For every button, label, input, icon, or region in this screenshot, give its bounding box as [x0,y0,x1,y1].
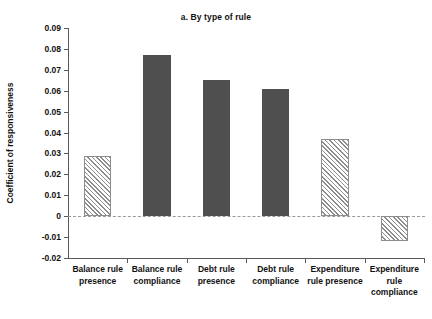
y-tick-label: 0.07 [44,65,61,75]
y-tick-label: 0.04 [44,128,61,138]
y-tick-mark [64,28,68,29]
x-category-label: Debt rule presence [187,264,246,287]
y-tick-label: -0.02 [42,253,61,263]
y-tick-label: 0.02 [44,169,61,179]
y-tick-label: 0.08 [44,44,61,54]
y-tick-mark [64,91,68,92]
y-tick-mark [64,153,68,154]
y-tick-label: 0 [56,211,61,221]
x-tick-mark [305,258,306,263]
y-axis-title-container: Coefficient of responsiveness [2,28,18,258]
zero-reference-line [68,216,425,217]
y-tick-mark [64,195,68,196]
bar [203,80,230,216]
x-tick-mark [246,258,247,263]
y-tick-mark [64,70,68,71]
y-tick-label: 0.01 [44,190,61,200]
bar [84,156,111,217]
y-tick-label: 0.06 [44,86,61,96]
y-tick-label: 0.03 [44,148,61,158]
x-tick-mark [424,258,425,263]
y-tick-mark [64,133,68,134]
x-category-label: Expenditure rule presence [305,264,364,287]
y-tick-mark [64,174,68,175]
chart-title: a. By type of rule [0,12,432,22]
x-tick-mark [187,258,188,263]
y-axis-title: Coefficient of responsiveness [5,83,15,204]
bar-chart: a. By type of rule Coefficient of respon… [0,0,432,319]
y-tick-label: 0.09 [44,23,61,33]
x-tick-mark [365,258,366,263]
y-tick-mark [64,49,68,50]
x-category-label: Debt rule compliance [246,264,305,287]
x-category-label: Balance rule presence [68,264,127,287]
y-tick-mark [64,112,68,113]
x-category-label: Balance rule compliance [127,264,186,287]
y-tick-mark [64,258,68,259]
plot-area: 0.090.080.070.060.050.040.030.020.010-0.… [68,28,424,258]
bar [381,216,408,241]
bar [143,55,170,216]
x-tick-mark [127,258,128,263]
y-tick-label: -0.01 [42,232,61,242]
y-tick-label: 0.05 [44,107,61,117]
bar [262,89,289,217]
y-tick-mark [64,237,68,238]
x-category-label: Expenditure rule compliance [365,264,424,299]
bar [321,139,348,216]
